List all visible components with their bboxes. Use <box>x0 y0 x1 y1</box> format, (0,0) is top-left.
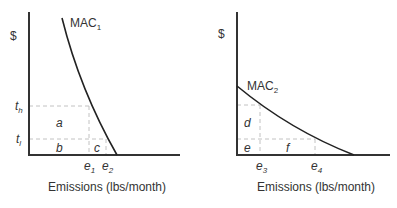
left-panel: $ MAC1 th tl a b c e1 e2 Emissions (lbs/… <box>10 12 180 194</box>
diagram: $ MAC1 th tl a b c e1 e2 Emissions (lbs/… <box>0 0 397 208</box>
mac1-label: MAC1 <box>70 16 102 32</box>
region-b-label: b <box>56 141 63 155</box>
left-y-axis-label: $ <box>10 29 17 43</box>
right-x-axis-label: Emissions (lbs/month) <box>257 180 375 194</box>
e3-tick-label: e3 <box>256 159 268 175</box>
region-e-label: e <box>244 141 251 155</box>
tl-tick-label: tl <box>16 132 21 148</box>
region-c-label: c <box>94 141 100 155</box>
e4-tick-label: e4 <box>311 159 323 175</box>
e1-tick-label: e1 <box>84 159 95 175</box>
region-a-label: a <box>56 116 63 130</box>
right-y-axis-label: $ <box>218 27 225 41</box>
e2-tick-label: e2 <box>102 159 114 175</box>
th-tick-label: th <box>15 99 23 115</box>
mac2-label: MAC2 <box>247 79 279 95</box>
region-f-label: f <box>286 141 291 155</box>
mac2-curve <box>237 86 354 155</box>
right-panel: $ MAC2 d e f e3 e4 Emissions (lbs/month) <box>218 12 390 194</box>
mac1-curve <box>62 18 117 155</box>
left-x-axis-label: Emissions (lbs/month) <box>48 180 166 194</box>
region-d-label: d <box>244 116 251 130</box>
